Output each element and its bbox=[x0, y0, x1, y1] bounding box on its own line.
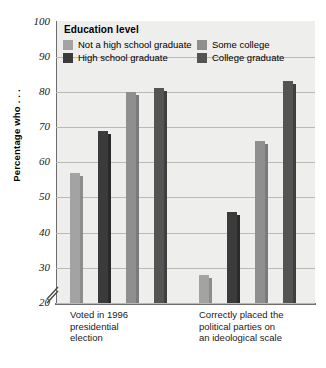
gridline bbox=[56, 197, 315, 198]
bar-face bbox=[283, 81, 293, 303]
category-label-line: election bbox=[70, 332, 128, 344]
y-axis-tick-label: 60 bbox=[16, 155, 50, 167]
legend-swatch-icon bbox=[197, 40, 207, 50]
category-label-line: political parties on bbox=[199, 321, 283, 333]
y-axis-tick-label: 80 bbox=[16, 85, 50, 97]
bar-face bbox=[154, 88, 164, 303]
legend-swatch-icon bbox=[63, 53, 73, 63]
legend-label: Some college bbox=[212, 39, 270, 50]
bar-shadow bbox=[237, 215, 240, 303]
y-axis-tick-label: 30 bbox=[16, 261, 50, 273]
category-label-line: Voted in 1996 bbox=[70, 309, 128, 321]
bar bbox=[255, 141, 265, 303]
bar-shadow bbox=[108, 134, 111, 303]
legend-item-not-a-high-school-graduate: Not a high school graduate bbox=[63, 39, 197, 50]
legend-row-1: Not a high school graduate Some college bbox=[63, 39, 307, 50]
bar-chart: Percentage who . . . 1009080706050403020… bbox=[0, 0, 326, 368]
bar-shadow bbox=[265, 144, 268, 303]
legend-label: High school graduate bbox=[78, 52, 168, 63]
bar-face bbox=[70, 173, 80, 303]
bar-shadow bbox=[293, 84, 296, 303]
y-axis-tick-label: 40 bbox=[16, 226, 50, 238]
bar bbox=[199, 275, 209, 303]
legend-label: College graduate bbox=[212, 52, 284, 63]
legend-label: Not a high school graduate bbox=[78, 39, 192, 50]
bar-face bbox=[98, 131, 108, 303]
bar-face bbox=[255, 141, 265, 303]
bar bbox=[227, 212, 237, 303]
bar-face bbox=[199, 275, 209, 303]
legend-title: Education level bbox=[64, 24, 307, 35]
axis-break-icon bbox=[44, 283, 62, 305]
y-axis-tick-label: 50 bbox=[16, 190, 50, 202]
category-label: Correctly placed thepolitical parties on… bbox=[199, 309, 283, 344]
bar bbox=[126, 92, 136, 303]
bar bbox=[283, 81, 293, 303]
category-label: Voted in 1996presidentialelection bbox=[70, 309, 128, 344]
gridline bbox=[56, 268, 315, 269]
y-axis-tick-label: 100 bbox=[16, 15, 50, 27]
y-axis-tick-label: 70 bbox=[16, 120, 50, 132]
bar-face bbox=[126, 92, 136, 303]
bar bbox=[98, 131, 108, 303]
legend-swatch-icon bbox=[197, 53, 207, 63]
gridline bbox=[56, 92, 315, 93]
category-label-line: presidential bbox=[70, 321, 128, 333]
gridline bbox=[56, 127, 315, 128]
gridline bbox=[56, 162, 315, 163]
legend: Education level Not a high school gradua… bbox=[63, 24, 307, 65]
legend-swatch-icon bbox=[63, 40, 73, 50]
bar bbox=[70, 173, 80, 303]
gridline bbox=[56, 233, 315, 234]
bar-shadow bbox=[209, 278, 212, 303]
legend-item-high-school-graduate: High school graduate bbox=[63, 52, 197, 63]
legend-row-2: High school graduate College graduate bbox=[63, 52, 307, 63]
bar-face bbox=[227, 212, 237, 303]
bar-shadow bbox=[164, 91, 167, 303]
bar-shadow bbox=[80, 176, 83, 303]
bar bbox=[154, 88, 164, 303]
category-label-line: Correctly placed the bbox=[199, 309, 283, 321]
legend-item-some-college: Some college bbox=[197, 39, 270, 50]
gridline bbox=[56, 303, 315, 304]
bar-shadow bbox=[136, 95, 139, 303]
legend-item-college-graduate: College graduate bbox=[197, 52, 284, 63]
category-label-line: an ideological scale bbox=[199, 332, 283, 344]
y-axis-tick-label: 90 bbox=[16, 50, 50, 62]
